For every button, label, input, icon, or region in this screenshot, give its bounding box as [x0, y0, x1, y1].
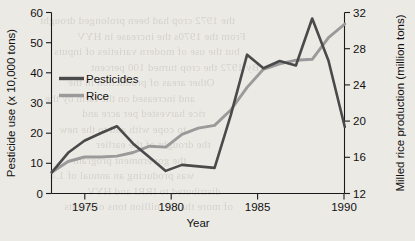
left-axis-ticks: [46, 13, 52, 194]
left-tick-label-40: 40: [30, 67, 43, 79]
legend-label-rice: Rice: [86, 90, 109, 102]
x-tick-label-1980: 1980: [158, 201, 184, 213]
left-tick-label-20: 20: [30, 127, 43, 139]
left-axis-tick-labels: 0 10 20 30 40 50 60: [30, 7, 43, 200]
right-axis-tick-labels: 12 16 20 24 28 32: [353, 7, 366, 200]
x-tick-label-1975: 1975: [72, 201, 98, 213]
legend-label-pesticides: Pesticides: [86, 73, 139, 85]
right-tick-label-16: 16: [353, 151, 366, 163]
right-tick-label-12: 12: [353, 188, 366, 200]
chart-figure: 0 10 20 30 40 50 60 12 16 20 24 28 32 19…: [0, 0, 415, 241]
y2-axis-title: Milled rice production (million tons): [394, 14, 406, 191]
chart-legend: Pesticides Rice: [59, 73, 139, 102]
x-axis-tick-labels: 1975 1980 1985 1990: [72, 201, 357, 213]
left-tick-label-50: 50: [30, 37, 43, 49]
right-axis-ticks: [345, 13, 351, 194]
left-tick-label-0: 0: [37, 188, 43, 200]
right-tick-label-32: 32: [353, 7, 366, 19]
left-tick-label-60: 60: [30, 7, 43, 19]
x-axis-title: Year: [186, 217, 209, 229]
left-tick-label-10: 10: [30, 157, 43, 169]
right-tick-label-24: 24: [353, 79, 366, 91]
x-axis-ticks: [85, 194, 344, 200]
x-tick-label-1990: 1990: [331, 201, 357, 213]
right-tick-label-28: 28: [353, 43, 366, 55]
right-tick-label-20: 20: [353, 115, 366, 127]
x-tick-label-1985: 1985: [245, 201, 271, 213]
y-axis-title: Pesticide use (x 10,000 tons): [5, 29, 17, 177]
left-tick-label-30: 30: [30, 97, 43, 109]
